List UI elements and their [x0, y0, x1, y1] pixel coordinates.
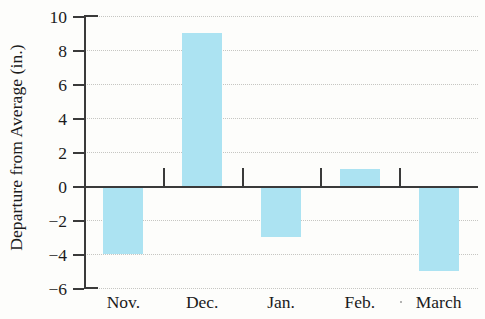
y-axis-spine	[84, 15, 86, 289]
x-tick-label: Feb.	[344, 292, 375, 313]
x-tick	[320, 168, 322, 186]
y-tick: 6	[73, 84, 84, 86]
y-tick-label: −2	[48, 210, 67, 232]
bar	[340, 169, 380, 186]
bar	[103, 186, 143, 254]
gridline	[84, 50, 478, 51]
gridline	[84, 118, 478, 119]
y-tick: 8	[73, 50, 84, 52]
axis-bottom-corner	[84, 287, 98, 289]
y-tick-label: 6	[58, 74, 67, 96]
y-tick: 4	[73, 118, 84, 120]
gridline	[84, 288, 478, 289]
y-tick-label: 10	[50, 6, 68, 28]
axis-top-corner	[84, 15, 98, 17]
x-axis-zero-line	[84, 186, 478, 188]
y-tick: −4	[73, 254, 84, 256]
y-tick: 0	[73, 186, 84, 188]
y-tick-label: 4	[58, 108, 67, 130]
bar	[261, 186, 301, 237]
x-tick	[163, 168, 165, 186]
y-tick: −6	[73, 288, 84, 290]
y-tick: 10	[73, 16, 84, 18]
x-tick-label: Jan.	[267, 292, 295, 313]
y-tick-label: −6	[48, 278, 67, 300]
gridline	[84, 16, 478, 17]
y-axis-title: Departure from Average (in.)	[3, 5, 29, 290]
x-tick	[399, 168, 401, 186]
y-tick: −2	[73, 220, 84, 222]
x-tick-label: Nov.	[107, 292, 140, 313]
print-speck-artifact	[400, 301, 402, 303]
gridline	[84, 152, 478, 153]
bar-chart-figure: Departure from Average (in.) 1086420−2−4…	[0, 0, 485, 319]
y-tick: 2	[73, 152, 84, 154]
gridline	[84, 84, 478, 85]
x-tick-label: March	[416, 292, 462, 313]
y-tick-label: 8	[58, 40, 67, 62]
x-tick	[242, 168, 244, 186]
y-tick-label: 2	[58, 142, 67, 164]
plot-area: 1086420−2−4−6	[84, 16, 478, 288]
x-tick-label: Dec.	[186, 292, 219, 313]
y-tick-label: −4	[48, 244, 67, 266]
bar	[419, 186, 459, 271]
y-tick-label: 0	[58, 176, 67, 198]
bar	[182, 33, 222, 186]
